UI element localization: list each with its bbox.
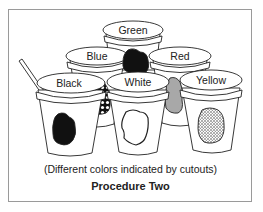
cutout-white [122, 110, 149, 145]
cup-white: White [107, 72, 169, 155]
cup-label-red: Red [170, 50, 189, 62]
straw [19, 59, 44, 93]
caption-note: (Different colors indicated by cutouts) [8, 163, 253, 175]
cup-yellow: Yellow [180, 70, 242, 153]
cup-label-white: White [125, 76, 152, 88]
figure-title: Procedure Two [8, 180, 253, 192]
cutout-yellow [198, 108, 224, 143]
cup-label-yellow: Yellow [196, 74, 226, 86]
cup-label-black: Black [56, 77, 82, 89]
cup-label-blue: Blue [86, 50, 107, 62]
cup-black: Black [36, 73, 106, 156]
cup-label-green: Green [118, 24, 147, 36]
